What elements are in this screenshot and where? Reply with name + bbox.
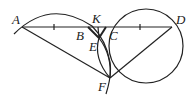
label-A: A <box>12 13 20 26</box>
right-circle <box>109 9 183 83</box>
segment-CE <box>99 27 106 38</box>
label-B: B <box>76 29 84 42</box>
segment-DF <box>110 27 172 78</box>
label-E: E <box>89 40 97 53</box>
label-D: D <box>176 13 185 26</box>
label-C: C <box>109 29 118 42</box>
label-F: F <box>98 80 106 93</box>
label-K: K <box>92 12 101 25</box>
geometry-figure: A B K C D E F <box>0 0 193 112</box>
